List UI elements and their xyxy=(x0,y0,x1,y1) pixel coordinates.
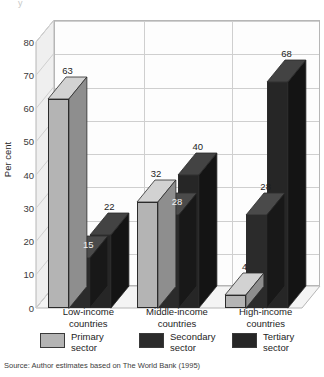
y-axis-tick: 20 xyxy=(10,237,34,246)
category-labels: Low-incomecountriesMiddle-incomecountrie… xyxy=(0,306,324,334)
bar-value-label: 15 xyxy=(69,239,108,250)
caption-remnant: y xyxy=(18,0,24,8)
y-axis-tick: 70 xyxy=(10,71,34,80)
plot-3d: 63152232284042868 xyxy=(36,20,320,310)
bar-front-face xyxy=(225,295,246,308)
category-label-line: countries xyxy=(38,318,138,330)
bar-value-label: 28 xyxy=(158,196,197,207)
bar-side-face xyxy=(69,77,87,308)
category-label-line: countries xyxy=(216,318,316,330)
y-axis-tick: 60 xyxy=(10,104,34,113)
bar-front-face xyxy=(48,99,69,308)
legend-item: Tertiary sector xyxy=(232,332,294,353)
legend-swatch xyxy=(139,333,164,348)
bar-value-label: 4 xyxy=(225,261,264,272)
bar-side-face xyxy=(288,60,306,308)
y-axis-tick: 10 xyxy=(10,270,34,279)
legend-label: Secondary sector xyxy=(170,332,215,353)
category-label-line: countries xyxy=(127,318,227,330)
y-axis-tick: 50 xyxy=(10,137,34,146)
legend-item: Secondary sector xyxy=(139,332,215,353)
legend-swatch xyxy=(232,333,257,348)
bar-front-face xyxy=(137,202,158,308)
chart-area: Per cent 01020304050607080 6315223228404… xyxy=(0,18,324,310)
legend-item: Primary sector xyxy=(40,332,104,353)
bar-value-label: 68 xyxy=(267,48,306,59)
legend-swatch xyxy=(40,333,65,348)
bar-value-label: 22 xyxy=(90,201,129,212)
legend-label: Tertiary sector xyxy=(263,332,294,353)
bar-value-label: 28 xyxy=(246,181,285,192)
y-axis-tick: 40 xyxy=(10,171,34,180)
bar xyxy=(137,202,158,308)
bar-side-face xyxy=(199,153,217,308)
bar-value-label: 63 xyxy=(48,65,87,76)
source-note: Source: Author estimates based on The Wo… xyxy=(4,361,200,370)
y-axis-tick: 30 xyxy=(10,204,34,213)
bar-group: 63152232284042868 xyxy=(36,20,320,310)
legend-label: Primary sector xyxy=(71,332,104,353)
bar-value-label: 40 xyxy=(178,141,217,152)
bar-value-label: 32 xyxy=(137,168,176,179)
bar xyxy=(225,295,246,308)
legend: Primary sectorSecondary sectorTertiary s… xyxy=(0,332,324,358)
bar xyxy=(48,99,69,308)
y-axis-tick: 80 xyxy=(10,38,34,47)
figure: y Per cent 01020304050607080 63152232284… xyxy=(0,0,324,377)
y-axis: 01020304050607080 xyxy=(4,18,34,310)
